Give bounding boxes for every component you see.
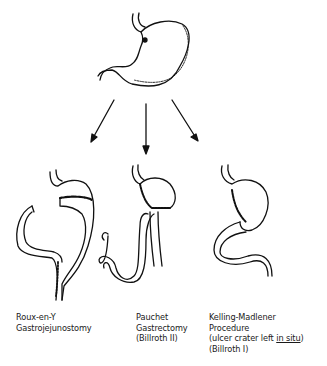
label-line: Gastrojejunostomy [16,323,92,334]
kelling-madlener-illustration [214,165,272,276]
label-line: (Billroth II) [136,333,188,344]
label-roux-en-y: Roux-en-Y Gastrojejunostomy [16,312,92,333]
label-line: (Billroth I) [209,344,304,355]
label-line: Pauchet [136,312,188,323]
label-line: Kelling-Madlener [209,312,304,323]
label-text: (ulcer crater left [209,333,276,343]
label-line: Procedure [209,323,304,334]
arrow-icons [91,100,198,154]
label-text: ) [301,333,304,343]
pauchet-illustration [99,165,175,282]
roux-en-y-illustration [17,170,94,300]
label-kelling-madlener: Kelling-Madlener Procedure (ulcer crater… [209,312,304,354]
stomach-illustration [98,13,189,86]
label-line: (ulcer crater left in situ) [209,333,304,344]
label-line: Roux-en-Y [16,312,92,323]
label-pauchet: Pauchet Gastrectomy (Billroth II) [136,312,188,344]
label-text-underlined: in situ [276,333,300,343]
label-line: Gastrectomy [136,323,188,334]
